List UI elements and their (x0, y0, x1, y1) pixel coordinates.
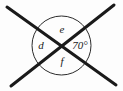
geometry-figure: e d f 70° (0, 0, 123, 91)
angle-label-e: e (60, 23, 65, 35)
angle-label-70deg: 70° (72, 39, 88, 51)
angle-label-d: d (38, 39, 44, 51)
intersecting-lines-diagram: e d f 70° (0, 0, 123, 91)
